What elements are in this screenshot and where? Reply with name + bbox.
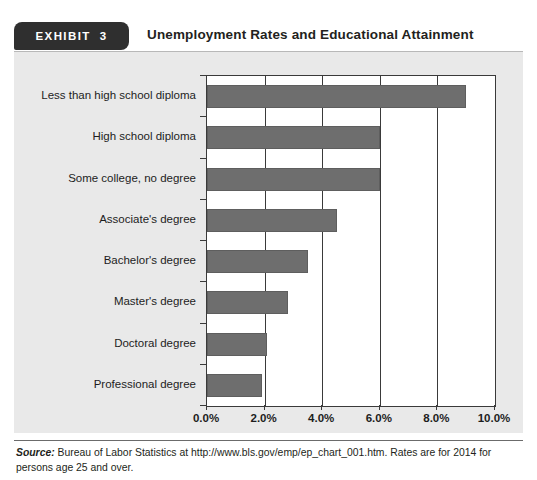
- y-axis-tick: [200, 323, 206, 324]
- y-axis-label: Bachelor's degree: [104, 240, 206, 281]
- x-axis-tick: [264, 405, 265, 410]
- source-label: Source:: [16, 447, 55, 458]
- bar: [207, 168, 380, 191]
- exhibit-badge-number: 3: [100, 30, 108, 42]
- bar-row: [207, 241, 495, 282]
- bar-row: [207, 324, 495, 365]
- y-axis-label: Some college, no degree: [68, 158, 206, 199]
- bar-row: [207, 117, 495, 158]
- plot-area: [206, 75, 496, 407]
- x-axis-label: 4.0%: [308, 412, 334, 424]
- bar: [207, 209, 337, 232]
- y-axis-label: Associate's degree: [99, 199, 206, 240]
- source-text: Bureau of Labor Statistics at http://www…: [16, 447, 491, 473]
- source-divider: [14, 440, 523, 441]
- x-axis-tick: [206, 405, 207, 410]
- y-axis-tick: [200, 199, 206, 200]
- bar: [207, 250, 308, 273]
- page-title: Unemployment Rates and Educational Attai…: [147, 27, 474, 42]
- y-axis-tick: [200, 240, 206, 241]
- y-axis-tick: [200, 364, 206, 365]
- bar-row: [207, 76, 495, 117]
- x-axis-label: 6.0%: [366, 412, 392, 424]
- bar-row: [207, 282, 495, 323]
- x-axis-label: 2.0%: [250, 412, 276, 424]
- x-axis-label: 10.0%: [478, 412, 511, 424]
- bar-row: [207, 159, 495, 200]
- bar: [207, 333, 267, 356]
- x-axis-tick: [436, 405, 437, 410]
- y-axis-labels: Less than high school diplomaHigh school…: [14, 75, 206, 405]
- exhibit-badge: EXHIBIT 3: [14, 22, 129, 50]
- y-axis-label: Doctoral degree: [114, 323, 206, 364]
- y-axis-tick: [200, 158, 206, 159]
- exhibit-badge-label: EXHIBIT: [36, 30, 91, 42]
- x-axis-label: 8.0%: [423, 412, 449, 424]
- y-axis-label: High school diploma: [92, 116, 206, 157]
- y-axis-label: Professional degree: [94, 364, 206, 405]
- bar: [207, 291, 288, 314]
- x-axis-tick: [494, 405, 495, 410]
- bar: [207, 126, 380, 149]
- chart-panel: Less than high school diplomaHigh school…: [14, 52, 523, 433]
- exhibit-header: EXHIBIT 3 Unemployment Rates and Educati…: [14, 22, 524, 52]
- bar: [207, 85, 466, 108]
- bar-row: [207, 365, 495, 406]
- source-note: Source: Bureau of Labor Statistics at ht…: [16, 446, 521, 475]
- y-axis-tick: [200, 75, 206, 76]
- y-axis-tick: [200, 116, 206, 117]
- bar-row: [207, 200, 495, 241]
- y-axis-tick: [200, 281, 206, 282]
- x-axis-tick: [379, 405, 380, 410]
- x-axis-label: 0.0%: [193, 412, 219, 424]
- bar: [207, 374, 262, 397]
- y-axis-label: Less than high school diploma: [41, 75, 206, 116]
- y-axis-label: Master's degree: [114, 281, 206, 322]
- x-axis-tick: [321, 405, 322, 410]
- exhibit-figure: EXHIBIT 3 Unemployment Rates and Educati…: [0, 0, 537, 480]
